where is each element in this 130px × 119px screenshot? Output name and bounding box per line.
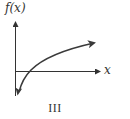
curve-lower-arrowhead-icon (16, 88, 23, 96)
figure-caption: III (0, 101, 110, 115)
y-axis-label: f(x) (5, 1, 26, 15)
function-graph-figure: f(x) x III (0, 0, 130, 119)
x-axis-label: x (104, 63, 111, 77)
function-curve (19, 43, 94, 92)
